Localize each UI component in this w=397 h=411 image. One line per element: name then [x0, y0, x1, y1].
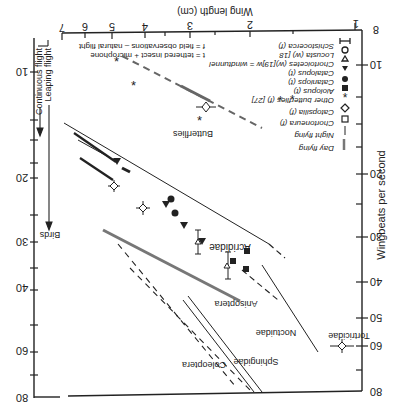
- sphingidae-label: Sphingidae: [233, 357, 278, 367]
- y-tick-label: 60: [16, 345, 28, 357]
- y-tick-label: 40: [370, 276, 382, 288]
- y-tick-label: 20: [16, 172, 28, 184]
- y-tick-label: 8: [373, 24, 379, 36]
- noctuidae-label: Noctuidae: [256, 328, 297, 338]
- y-tick-label: 80: [16, 392, 28, 404]
- leaping-flight-label: Leaping flight: [43, 48, 53, 102]
- asterisk-icon: *: [197, 113, 202, 128]
- legend-label: Catopsilia (f): [289, 108, 334, 117]
- x-axis-line: [62, 30, 362, 33]
- asterisk-icon: *: [131, 78, 136, 93]
- legend-label: Aiolopus (t): [293, 87, 335, 96]
- legend-note: t = tethered insect + microphone: [90, 51, 205, 60]
- legend-label: Schistocerca (f): [278, 42, 334, 51]
- tortricidae-label: Tortricidae: [328, 331, 370, 341]
- asterisk-icon: *: [114, 54, 119, 69]
- birds-label: Birds: [39, 230, 60, 240]
- asterisk-icon: *: [343, 91, 348, 105]
- x-tick-label: 5: [109, 21, 115, 33]
- y-tick-label: 80: [370, 386, 382, 398]
- legend-label: Locusta (w) [18: [279, 51, 334, 60]
- x-axis-title: Wing length (cm): [177, 6, 253, 17]
- y-tick-labels-left: 10 20 30 40 60 80: [16, 66, 28, 404]
- coleoptera-label: Coleoptera: [182, 360, 226, 370]
- y-tick-label: 10: [370, 59, 382, 71]
- butterflies-label: Butterflies: [172, 129, 213, 139]
- anisoptera-label: Anisoptera: [214, 299, 257, 309]
- legend-label: Cataniops (t): [288, 78, 334, 87]
- y-tick-label: 30: [16, 236, 28, 248]
- x-tick-label: 4: [142, 21, 148, 33]
- legend-note: f = field observations – natural flight: [78, 42, 205, 51]
- legend-label: Chortoicetes (w)[19]w = windtunnel: [209, 60, 334, 69]
- group-labels: Butterflies Acrididae Anisoptera Noctuid…: [172, 129, 369, 370]
- y-tick-label: 60: [370, 340, 382, 352]
- y-axis-title: Wingbeats per second: [375, 150, 387, 259]
- x-tick-label: 7: [59, 22, 65, 34]
- asterisk-icon: *: [290, 93, 295, 107]
- x-tick-label: 6: [82, 21, 88, 33]
- legend-label: Night flying: [294, 131, 334, 140]
- y-tick-label: 10: [16, 66, 28, 78]
- y-tick-label: 50: [370, 312, 382, 324]
- y-tick-label: 40: [16, 282, 28, 294]
- x-tick-label: 1: [353, 18, 359, 30]
- x-tick-label: 3: [187, 20, 193, 32]
- legend-label: Catalopus (t): [288, 69, 334, 78]
- legend-label: Day flying: [298, 144, 334, 153]
- asterisk-icon: *: [278, 94, 283, 108]
- x-axis-bottom-line: [68, 391, 362, 396]
- chart-svg: 1 2 3 4 5 6 7 8 10 20 30 40 50 60 80 10 …: [0, 0, 397, 411]
- acrididae-label: Acrididae: [209, 242, 251, 253]
- x-tick-label: 2: [247, 19, 253, 31]
- legend-label: Chortoneura (f): [279, 119, 334, 128]
- chart-figure: 1 2 3 4 5 6 7 8 10 20 30 40 50 60 80 10 …: [0, 0, 397, 411]
